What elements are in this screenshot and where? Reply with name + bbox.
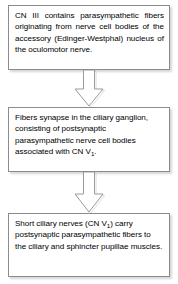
flowchart-node-3: Short ciliary nerves (CN V1) carry posts…	[8, 213, 170, 277]
flowchart-node-1: CN III contains parasympathetic fibers o…	[8, 5, 170, 70]
flowchart-node-2: Fibers synapse in the ciliary ganglion, …	[8, 107, 170, 172]
down-arrow-icon	[61, 70, 117, 107]
flowchart-node-3-subscript: 1	[107, 222, 110, 229]
flowchart-node-2-text-main: Fibers synapse in the ciliary ganglion, …	[15, 113, 148, 156]
flowchart-node-2-subscript: 1	[91, 150, 94, 157]
flowchart-node-1-text: CN III contains parasympathetic fibers o…	[15, 10, 164, 56]
flowchart-diagram: CN III contains parasympathetic fibers o…	[0, 0, 178, 284]
flowchart-node-2-text-tail: .	[94, 147, 96, 156]
flowchart-node-3-text-main: Short ciliary nerves (CN V	[15, 219, 107, 228]
flowchart-node-2-text: Fibers synapse in the ciliary ganglion, …	[15, 112, 164, 158]
down-arrow-icon	[61, 172, 117, 213]
flowchart-node-3-text: Short ciliary nerves (CN V1) carry posts…	[15, 218, 164, 252]
